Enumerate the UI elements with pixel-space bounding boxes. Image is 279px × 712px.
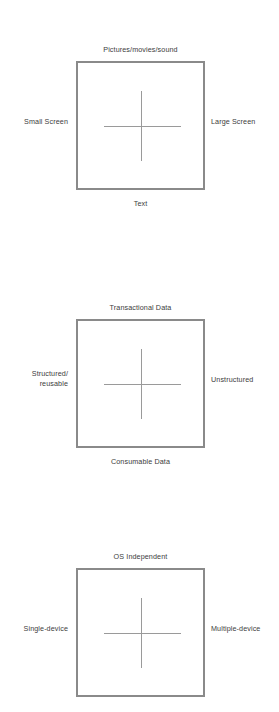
matrix-box-3 [76,568,205,697]
axis-label-top-3: OS Independent [76,552,205,562]
axis-label-bottom-2: Consumable Data [76,457,205,467]
crosshair-horizontal-axis-3 [104,633,180,634]
crosshair-3 [78,570,203,695]
axis-label-right-2: Unstructured [211,375,279,385]
crosshair-1 [78,63,203,188]
crosshair-2 [78,321,203,446]
crosshair-horizontal-axis-1 [104,126,180,127]
axis-label-left-3: Single-device [0,624,68,634]
matrix-box-1 [76,61,205,190]
axis-label-right-1: Large Screen [211,117,279,127]
crosshair-vertical-axis-2 [141,349,142,419]
crosshair-vertical-axis-3 [141,598,142,668]
quadrant-diagrams-page: { "page": { "background_color": "#ffffff… [0,0,279,712]
axis-label-top-1: Pictures/movies/sound [76,45,205,55]
axis-label-left-2: Structured/ reusable [0,369,68,390]
axis-label-right-3: Multiple-device [211,624,279,634]
axis-label-left-2-line2: reusable [0,379,68,389]
axis-label-left-1: Small Screen [0,117,68,127]
matrix-box-2 [76,319,205,448]
crosshair-vertical-axis-1 [141,91,142,161]
crosshair-horizontal-axis-2 [104,384,180,385]
axis-label-left-2-line1: Structured/ [0,369,68,379]
axis-label-bottom-1: Text [76,199,205,209]
axis-label-top-2: Transactional Data [76,303,205,313]
